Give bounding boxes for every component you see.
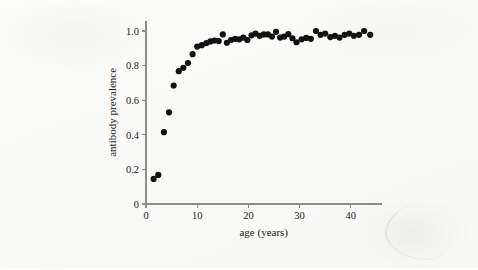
data-point — [185, 60, 191, 66]
data-point — [269, 33, 275, 39]
data-point — [216, 38, 222, 44]
data-point — [180, 65, 186, 71]
data-point — [155, 172, 161, 178]
x-tick-label-30: 30 — [294, 210, 305, 221]
y-tick-label-0_8: 0.8 — [126, 60, 139, 71]
data-point — [171, 82, 177, 88]
data-point — [367, 32, 373, 38]
axes-group — [146, 21, 382, 204]
data-point — [361, 28, 367, 34]
data-points-group — [151, 28, 374, 182]
y-tick-label-0_2: 0.2 — [126, 164, 139, 175]
data-point — [356, 32, 362, 38]
data-point — [161, 129, 167, 135]
data-point — [166, 109, 172, 115]
tick-marks-group — [142, 31, 350, 208]
y-tick-label-0: 0 — [134, 199, 139, 210]
data-point — [308, 36, 314, 42]
y-tick-label-0_4: 0.4 — [126, 130, 140, 141]
x-axis-title: age (years) — [239, 226, 288, 239]
data-point — [244, 37, 250, 43]
y-axis-title: antibody prevalence — [106, 68, 118, 157]
data-point — [351, 33, 357, 39]
data-point — [189, 51, 195, 57]
x-tick-label-10: 10 — [192, 210, 203, 221]
y-tick-labels: 00.20.40.60.81.0 — [126, 26, 140, 210]
data-point — [220, 31, 226, 37]
x-tick-label-40: 40 — [346, 210, 357, 221]
data-point — [322, 30, 328, 36]
y-tick-label-0_6: 0.6 — [126, 95, 139, 106]
x-tick-label-0: 0 — [143, 210, 148, 221]
x-tick-labels: 010203040 — [143, 210, 356, 221]
data-point — [273, 29, 279, 35]
y-tick-label-1: 1.0 — [126, 26, 139, 37]
x-tick-label-20: 20 — [243, 210, 254, 221]
